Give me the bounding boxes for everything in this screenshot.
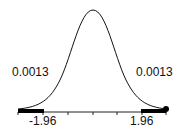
right-tail-area-label: 0.0013 — [136, 66, 173, 78]
bell-curve — [18, 10, 167, 109]
right-critical-value: 1.96 — [130, 115, 153, 127]
left-tail-area-label: 0.0013 — [12, 66, 49, 78]
left-tail-bar — [18, 109, 44, 113]
left-critical-value: -1.96 — [29, 115, 56, 127]
right-endpoint-dot — [163, 106, 169, 112]
right-tail-bar — [141, 109, 166, 113]
